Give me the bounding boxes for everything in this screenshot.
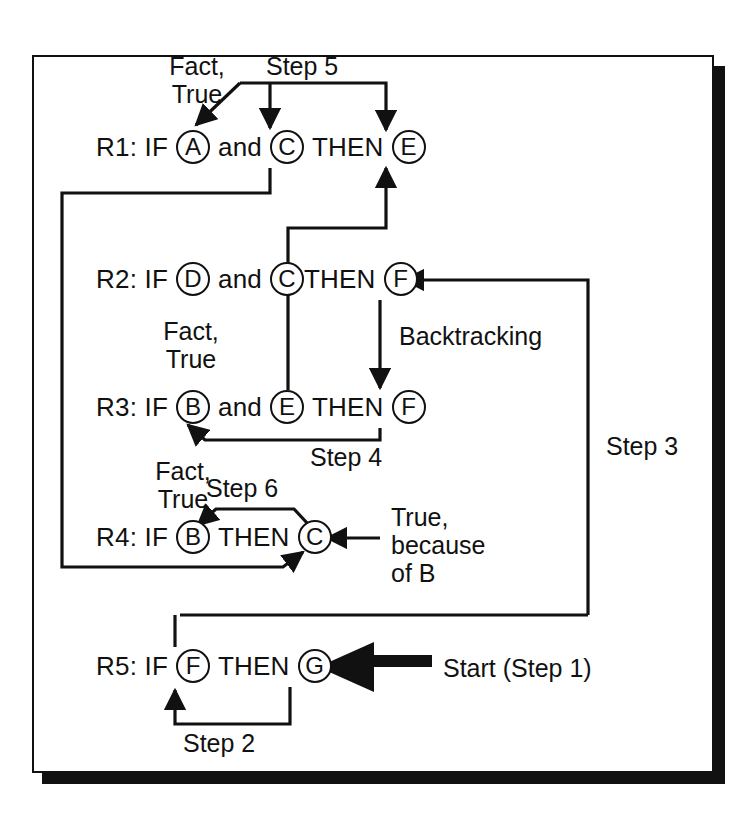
node-G[interactable]: G [298, 649, 332, 683]
node-F-r2[interactable]: F [384, 262, 418, 296]
rule-connector: and [218, 132, 262, 163]
rule-then: THEN [312, 392, 384, 423]
node-F-r3[interactable]: F [392, 390, 426, 424]
label-true-because-of-b: True,becauseof B [391, 503, 541, 587]
start-arrow-icon [318, 642, 432, 692]
rule-prefix: R3: IF [96, 392, 168, 423]
node-F-r5[interactable]: F [176, 649, 210, 683]
node-A[interactable]: A [176, 130, 210, 164]
rule-row-R4: R4: IF B THEN C [96, 520, 332, 554]
label-backtracking: Backtracking [399, 322, 542, 350]
rule-prefix: R2: IF [96, 264, 168, 295]
rule-then: THEN [312, 132, 384, 163]
rule-row-R5: R5: IF F THEN G [96, 649, 332, 683]
rule-connector: and [218, 264, 262, 295]
node-B-r4[interactable]: B [176, 520, 210, 554]
rule-row-R1: R1: IF A and C THEN E [96, 130, 426, 164]
node-E-r1[interactable]: E [392, 130, 426, 164]
rule-connector: and [218, 392, 262, 423]
label-step-3: Step 3 [606, 432, 678, 460]
rule-row-R3: R3: IF B and E THEN F [96, 390, 426, 424]
label-step-6: Step 6 [206, 474, 278, 502]
label-step-2: Step 2 [183, 729, 255, 757]
label-fact-true-2: Fact,True [136, 317, 246, 373]
node-C-r4[interactable]: C [298, 520, 332, 554]
node-D[interactable]: D [176, 262, 210, 296]
label-step-4: Step 4 [310, 443, 382, 471]
rule-row-R2: R2: IF D and C THEN F [96, 262, 418, 296]
label-start: Start (Step 1) [443, 654, 592, 682]
rule-prefix: R1: IF [96, 132, 168, 163]
rule-then: THEN [218, 651, 290, 682]
rule-then: THEN [218, 522, 290, 553]
rule-prefix: R5: IF [96, 651, 168, 682]
node-C-r2[interactable]: C [270, 262, 304, 296]
label-step-5: Step 5 [266, 52, 338, 80]
diagram-canvas: R1: IF A and C THEN E R2: IF D and C THE… [0, 0, 750, 814]
label-fact-true-1: Fact,True [142, 52, 252, 108]
node-B-r3[interactable]: B [176, 390, 210, 424]
rule-then: THEN [304, 264, 376, 295]
node-E-r3[interactable]: E [270, 390, 304, 424]
node-C-r1[interactable]: C [270, 130, 304, 164]
rule-prefix: R4: IF [96, 522, 168, 553]
